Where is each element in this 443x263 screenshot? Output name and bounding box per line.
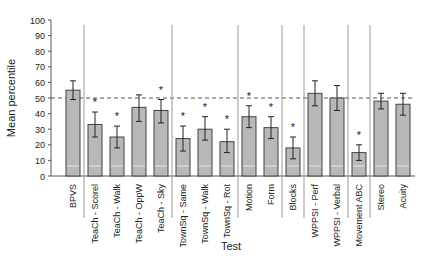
bar-9: * [264, 101, 278, 176]
significance-marker: * [159, 84, 164, 96]
x-tick-label: TeaCh - OppW [134, 184, 144, 244]
x-tick-label: Stereo [376, 184, 386, 211]
bar-chart: 0102030405060708090100 ********** BPVSTe… [0, 0, 443, 263]
y-tick-label: 30 [35, 125, 45, 135]
x-tick-label: TownSq - Walk [200, 184, 210, 244]
x-tick-label: TeaCh - Walk [112, 184, 122, 238]
significance-marker: * [291, 121, 296, 133]
y-tick-label: 60 [35, 78, 45, 88]
x-tick-label: Acuity [398, 184, 408, 209]
y-tick-label: 80 [35, 47, 45, 57]
y-tick-label: 100 [30, 16, 45, 26]
significance-marker: * [225, 113, 230, 125]
y-tick-label: 70 [35, 62, 45, 72]
bar-11 [308, 81, 322, 176]
bar-13: * [352, 129, 366, 176]
bar-10: * [286, 121, 300, 176]
y-tick-label: 40 [35, 109, 45, 119]
x-tick-label: Blocks [288, 184, 298, 211]
bar-15 [396, 93, 410, 176]
bar-2: * [110, 110, 124, 176]
significance-marker: * [247, 90, 252, 102]
x-tick-label: TownSq - Rot [222, 184, 232, 239]
x-tick-label: TeaCh - Sky [156, 184, 166, 234]
y-tick-label: 10 [35, 156, 45, 166]
x-tick-label: Movement ABC [354, 184, 364, 247]
bar-6: * [198, 101, 212, 176]
bar-5: * [176, 110, 190, 176]
significance-marker: * [203, 101, 208, 113]
chart-canvas: 0102030405060708090100 ********** BPVSTe… [0, 0, 443, 263]
x-tick-label: TownSq - Same [178, 184, 188, 248]
x-tick-label: WPPSI - Perf [310, 184, 320, 238]
x-tick-label: WPPSI - Verbal [332, 184, 342, 247]
bar-12 [330, 86, 344, 176]
y-tick-label: 50 [35, 94, 45, 104]
bar-14 [374, 93, 388, 176]
bar-7: * [220, 113, 234, 176]
bar-1: * [88, 96, 102, 176]
y-tick-label: 20 [35, 140, 45, 150]
y-tick-label: 90 [35, 31, 45, 41]
significance-marker: * [181, 110, 186, 122]
bar-8: * [242, 90, 256, 176]
x-tick-label: BPVS [68, 184, 78, 208]
bar-4: * [154, 84, 168, 176]
significance-marker: * [115, 110, 120, 122]
significance-marker: * [357, 129, 362, 141]
y-tick-label: 0 [40, 172, 45, 182]
x-tick-label: Form [266, 184, 276, 205]
x-tick-label: TeaCh - Scorel [90, 184, 100, 244]
significance-marker: * [269, 101, 274, 113]
x-axis-label: Test [221, 240, 241, 252]
bar-0 [66, 81, 80, 176]
significance-marker: * [93, 96, 98, 108]
x-tick-label: Motion [244, 184, 254, 211]
y-axis-label: Mean percentile [5, 59, 17, 137]
bar-3 [132, 95, 146, 176]
